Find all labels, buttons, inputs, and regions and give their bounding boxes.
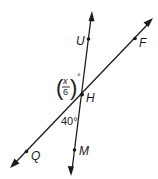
point-m <box>73 148 77 152</box>
arrowhead-upright-icon <box>144 18 154 27</box>
arrowhead-down-icon <box>68 166 74 176</box>
degree-symbol: ° <box>77 72 81 82</box>
label-f: F <box>139 36 147 50</box>
fraction-denominator: 6 <box>63 87 68 97</box>
arrowhead-up-icon <box>89 11 95 22</box>
point-q <box>25 150 29 154</box>
angle-label-40: 40° <box>61 115 78 127</box>
angle-label-x-over-6: ( x 6 ) ° <box>56 72 81 100</box>
intersecting-lines-diagram: U F H Q M ( x 6 ) ° 40° <box>0 0 158 179</box>
point-h <box>80 93 84 97</box>
label-u: U <box>76 34 85 48</box>
label-q: Q <box>31 149 40 163</box>
label-h: H <box>86 91 95 105</box>
point-u <box>87 37 91 41</box>
label-m: M <box>79 144 89 158</box>
fraction-numerator: x <box>62 76 68 86</box>
point-f <box>133 37 137 41</box>
